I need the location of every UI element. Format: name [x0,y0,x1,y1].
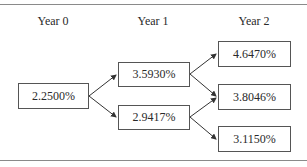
arrow-y0-to-y1-up [89,75,116,96]
arrow-y1-down-to-y2-downdown [190,117,216,139]
node-year2-mid-rate: 3.8046% [218,84,291,110]
arrow-y1-up-to-y2-mid [190,74,216,96]
arrow-y1-up-to-y2-upup [190,54,216,74]
node-year2-downdown-rate: 3.1150% [218,126,291,152]
node-year1-up-rate: 3.5930% [118,62,190,87]
arrow-y1-down-to-y2-mid [190,98,216,117]
node-year2-upup-rate: 4.6470% [218,41,291,67]
bottom-rule [0,160,307,161]
node-year1-down-rate: 2.9417% [118,105,190,130]
arrow-y0-to-y1-down [89,96,116,117]
node-year0-rate: 2.2500% [18,83,89,109]
